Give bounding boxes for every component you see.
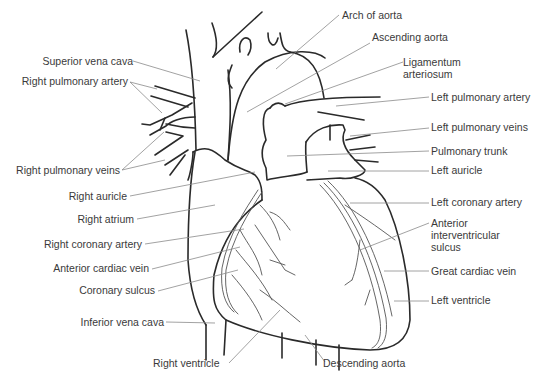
label-arch-of-aorta: Arch of aorta <box>342 9 402 21</box>
leader-ascending-aorta <box>247 43 370 112</box>
label-pulmonary-trunk: Pulmonary trunk <box>431 145 507 157</box>
leader-left-pulmonary-veins <box>350 128 429 136</box>
label-right-pulmonary-veins: Right pulmonary veins <box>16 164 120 176</box>
leader-right-atrium <box>137 205 215 219</box>
label-right-atrium: Right atrium <box>77 213 134 225</box>
leader-right-pulmonary-veins <box>122 132 165 170</box>
label-ligamentum-arteriosum: Ligamentum arteriosum <box>403 56 461 80</box>
leader-inferior-vena-cava <box>166 322 215 323</box>
label-left-auricle: Left auricle <box>431 164 482 176</box>
leader-arch-of-aorta <box>276 15 339 69</box>
label-descending-aorta: Descending aorta <box>323 357 405 369</box>
label-right-ventricle: Right ventricle <box>153 357 220 369</box>
leader-anterior-interventricular-sulcus <box>360 223 429 250</box>
leader-left-pulmonary-artery <box>336 97 429 106</box>
leader-pulmonary-trunk <box>287 151 429 156</box>
leader-right-ventricle <box>229 310 280 363</box>
left-auricle-outline <box>306 125 365 180</box>
label-left-coronary-artery: Left coronary artery <box>431 196 522 208</box>
label-right-coronary-artery: Right coronary artery <box>44 238 142 250</box>
label-coronary-sulcus: Coronary sulcus <box>79 284 155 296</box>
leader-superior-vena-cava <box>133 61 200 81</box>
label-great-cardiac-vein: Great cardiac vein <box>431 265 516 277</box>
ascending-aorta-outline <box>228 52 325 160</box>
label-right-auricle: Right auricle <box>69 190 127 202</box>
superior-vena-cava-outline <box>186 30 196 150</box>
label-anterior-interventricular-sulcus: Anterior interventricular sulcus <box>431 217 500 253</box>
label-left-ventricle: Left ventricle <box>431 294 491 306</box>
label-left-pulmonary-veins: Left pulmonary veins <box>431 121 528 133</box>
pulmonary-trunk-outline <box>262 108 307 180</box>
label-ascending-aorta: Ascending aorta <box>372 31 448 43</box>
heart-diagram: Superior vena cava Right pulmonary arter… <box>0 0 540 377</box>
label-superior-vena-cava: Superior vena cava <box>43 55 133 67</box>
label-inferior-vena-cava: Inferior vena cava <box>81 316 164 328</box>
label-right-pulmonary-artery: Right pulmonary artery <box>22 75 128 87</box>
label-left-pulmonary-artery: Left pulmonary artery <box>431 91 530 103</box>
label-anterior-cardiac-vein: Anterior cardiac vein <box>53 262 149 274</box>
leader-descending-aorta <box>305 335 325 362</box>
